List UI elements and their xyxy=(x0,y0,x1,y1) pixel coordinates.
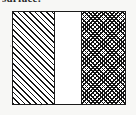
layer-right-crosshatched xyxy=(82,12,125,104)
figure-root: surface: xyxy=(0,0,136,115)
layer-diagram-box xyxy=(12,11,126,105)
layer-left-hatched xyxy=(13,12,55,104)
layer-middle-blank xyxy=(55,12,82,104)
caption-fragment-text: surface: xyxy=(2,0,62,4)
